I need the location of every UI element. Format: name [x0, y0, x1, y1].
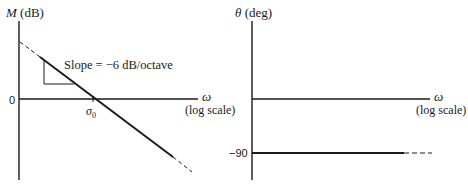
slope-label: Slope = −6 dB/octave [64, 58, 173, 72]
magnitude-x-symbol: ω [202, 89, 211, 104]
phase-y-label: θ (deg) [235, 5, 272, 20]
phase-x-symbol: ω [434, 89, 443, 104]
zero-tick-label: 0 [9, 94, 15, 106]
phase-tick-label: −90 [229, 147, 248, 159]
asymptote-dashed-end [173, 157, 192, 172]
phase-x-note: (log scale) [416, 103, 466, 117]
asymptote-dashed-start [20, 42, 40, 57]
breakpoint-label: σ0 [86, 104, 96, 120]
bode-plot-diagram: M (dB) 0 Slope = −6 dB/octave σ0 ω (log … [0, 0, 468, 186]
asymptote-line [40, 57, 173, 157]
magnitude-x-note: (log scale) [185, 103, 235, 117]
phase-plot: θ (deg) −90 ω (log scale) [229, 5, 466, 180]
magnitude-plot: M (dB) 0 Slope = −6 dB/octave σ0 ω (log … [5, 5, 235, 180]
magnitude-y-label: M (dB) [5, 5, 44, 20]
